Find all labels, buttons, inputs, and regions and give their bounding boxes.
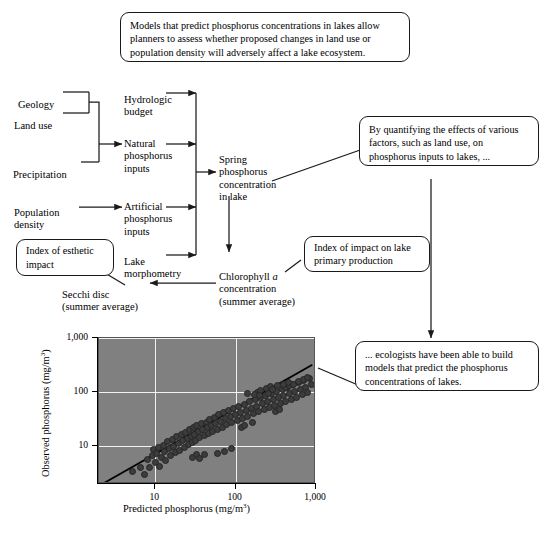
data-point (141, 471, 148, 478)
x-tick-label: 10 (129, 492, 179, 502)
y-axis-line (97, 337, 98, 484)
data-point (241, 422, 248, 429)
x-axis-title-pre: Predicted phosphorus (mg/m (123, 503, 243, 514)
data-point (244, 390, 251, 397)
data-point (308, 381, 315, 388)
y-axis-title: Observed phosphorus (mg/m3) (40, 349, 51, 477)
y-tick-label: 1,000 (36, 332, 88, 342)
data-point (276, 406, 283, 413)
y-tick-mark (92, 445, 98, 446)
x-axis-title: Predicted phosphorus (mg/m3) (123, 503, 250, 514)
figure-root: Models that predict phosphorus concentra… (0, 0, 545, 543)
y-tick-mark (92, 391, 98, 392)
data-point (285, 379, 292, 386)
data-point (228, 445, 235, 452)
data-point (249, 419, 256, 426)
x-tick-mark (315, 483, 316, 489)
data-point (137, 464, 144, 471)
data-point (146, 464, 153, 471)
data-point (221, 448, 228, 455)
x-tick-mark (154, 483, 155, 489)
y-axis-title-post: ) (40, 349, 51, 352)
x-tick-label: 100 (210, 492, 260, 502)
y-axis-title-pre: Observed phosphorus (mg/m (40, 356, 51, 477)
y-tick-mark (92, 337, 98, 338)
x-tick-label: 1,000 (290, 492, 340, 502)
x-axis-line (97, 483, 315, 484)
data-point (129, 468, 136, 475)
scatter-plot: 101001,000101001,000 Predicted phosphoru… (0, 0, 545, 543)
y-axis-title-sup: 3 (39, 353, 47, 357)
data-point (156, 463, 163, 470)
x-axis-title-post: ) (247, 503, 250, 514)
x-tick-mark (235, 483, 236, 489)
plot-area (98, 337, 315, 483)
